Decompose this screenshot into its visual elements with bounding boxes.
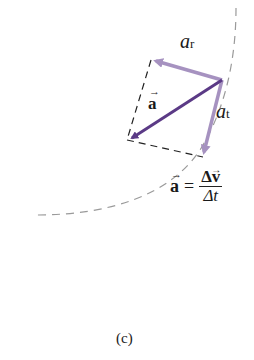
vector-arrow-accent: → <box>171 168 182 180</box>
label-a-vector: → a <box>148 94 157 114</box>
radial-component-arrow <box>156 61 222 80</box>
label-a-r: ar <box>180 30 194 53</box>
dashed-parallelogram <box>127 60 203 157</box>
equation: → a = → Δv Δt <box>170 168 222 205</box>
equation-fraction: → Δv Δt <box>199 168 222 205</box>
label-a-r-main: a <box>180 30 190 52</box>
label-a-t: at <box>216 100 230 123</box>
label-a-r-sub: r <box>190 36 194 51</box>
equation-denominator: Δt <box>203 187 218 205</box>
label-a-t-sub: t <box>226 106 230 121</box>
figure-caption: (c) <box>116 330 133 347</box>
equation-lhs: → a <box>170 176 179 197</box>
label-a-t-main: a <box>216 100 226 122</box>
vector-arrow-accent: → <box>149 85 160 97</box>
vector-arrow-accent: → <box>211 161 221 179</box>
equation-numerator: → Δv <box>199 168 222 187</box>
equation-equals: = <box>184 176 194 197</box>
